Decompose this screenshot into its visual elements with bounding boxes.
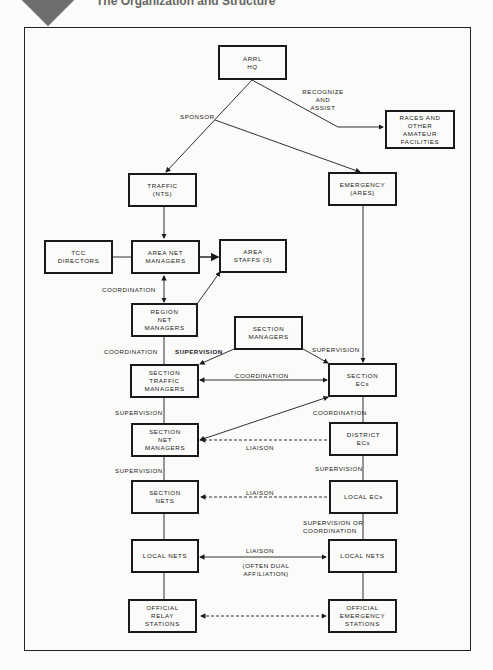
- label-liaison-sn-local: LIAISON: [246, 489, 274, 497]
- label-often-dual-affiliation: (OFTEN DUAL AFFILIATION): [236, 562, 296, 578]
- node-area-net-managers: AREA NET MANAGERS: [131, 240, 200, 274]
- node-official-relay-stations: OFFICIAL RELAY STATIONS: [128, 599, 197, 633]
- node-traffic-nts: TRAFFIC (NTS): [128, 173, 197, 207]
- label-sponsor: SPONSOR: [180, 113, 214, 121]
- node-section-net-managers: SECTION NET MANAGERS: [131, 423, 199, 457]
- label-supervision-district-local: SUPERVISION: [315, 465, 363, 473]
- node-arrl-hq: ARRL HQ: [218, 45, 287, 80]
- label-supervision-left: SUPERVISION: [175, 348, 223, 356]
- node-area-staffs: AREA STAFFS (3): [219, 239, 287, 273]
- node-local-nets-right: LOCAL NETS: [328, 539, 397, 573]
- label-recognize-assist: RECOGNIZE AND ASSIST: [298, 88, 348, 112]
- node-tcc-directors: TCC DIRECTORS: [44, 240, 113, 274]
- node-local-ecs: LOCAL ECs: [329, 480, 398, 514]
- label-coordination-stm-secs: COORDINATION: [235, 372, 289, 380]
- label-supervision-right: SUPERVISION: [312, 346, 360, 354]
- label-supervision-stm-snm: SUPERVISION: [115, 409, 163, 417]
- label-liaison-local-nets: LIAISON: [246, 547, 274, 555]
- label-coordination-secs-district: COORDINATION: [313, 409, 367, 417]
- node-section-ecs: SECTION ECs: [328, 363, 397, 397]
- node-races: RACES AND OTHER AMATEUR FACILITIES: [385, 110, 455, 149]
- node-official-emergency-stations: OFFICIAL EMERGENCY STATIONS: [328, 599, 397, 633]
- node-region-net-managers: REGION NET MANAGERS: [131, 303, 198, 337]
- label-coordination-area-region: COORDINATION: [102, 286, 156, 294]
- label-supervision-or-coordination: SUPERVISION OR COORDINATION: [303, 519, 363, 535]
- node-district-ecs: DISTRICT ECs: [329, 422, 398, 456]
- node-local-nets-left: LOCAL NETS: [131, 539, 199, 573]
- label-supervision-snm-sn: SUPERVISION: [115, 467, 163, 475]
- node-section-nets: SECTION NETS: [131, 480, 199, 514]
- label-coordination-region-section: COORDINATION: [104, 348, 158, 356]
- node-emergency-ares: EMERGENCY (ARES): [328, 172, 397, 206]
- node-section-managers: SECTION MANAGERS: [234, 316, 303, 350]
- node-section-traffic-managers: SECTION TRAFFIC MANAGERS: [130, 364, 199, 398]
- label-liaison-snm-district: LIAISON: [246, 444, 274, 452]
